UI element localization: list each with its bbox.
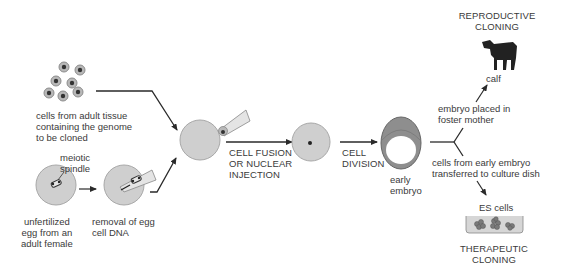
- arrow-to-calf: [476, 85, 487, 102]
- label-line: to be cloned: [36, 132, 132, 143]
- label-line: containing the genome: [36, 121, 132, 132]
- transfer-label: cells from early embryo transferred to c…: [432, 157, 540, 179]
- meiotic-spindle-label: meiotic spindle: [60, 152, 90, 174]
- label-line: egg from an: [21, 227, 73, 238]
- label-line: meiotic: [60, 152, 90, 163]
- cell-cluster-icon: [44, 62, 85, 101]
- early-embryo-label: early embryo: [390, 174, 422, 196]
- label-line: embryo placed in: [438, 103, 510, 114]
- culture-dish-icon: [466, 216, 523, 233]
- fusion-caption: CELL FUSION OR NUCLEAR INJECTION: [229, 147, 292, 180]
- label-line: unfertilized: [21, 216, 73, 227]
- arrow-to-dish: [477, 181, 486, 195]
- branch-connector: [430, 128, 463, 156]
- label-line: CLONING: [457, 21, 537, 32]
- removal-label: removal of egg cell DNA: [92, 216, 155, 238]
- enucleated-egg-icon: [104, 165, 156, 205]
- label-line: THERAPEUTIC: [454, 243, 534, 254]
- label-line: CELL: [342, 147, 385, 158]
- label-line: REPRODUCTIVE: [457, 10, 537, 21]
- foster-mother-label: embryo placed in foster mother: [438, 103, 510, 125]
- label-line: removal of egg: [92, 216, 155, 227]
- division-caption: CELL DIVISION: [342, 147, 385, 169]
- label-line: adult female: [21, 238, 73, 249]
- label-line: cell DNA: [92, 227, 155, 238]
- label-line: CLONING: [454, 254, 534, 265]
- reconstructed-egg-icon: [292, 123, 330, 161]
- label-line: OR NUCLEAR: [229, 158, 292, 169]
- label-line: foster mother: [438, 114, 510, 125]
- calf-icon: [482, 40, 517, 70]
- es-cells-label: ES cells: [479, 202, 513, 213]
- reproductive-cloning-title: REPRODUCTIVE CLONING: [457, 10, 537, 32]
- therapeutic-cloning-title: THERAPEUTIC CLONING: [454, 243, 534, 265]
- adult-cells-label: cells from adult tissue containing the g…: [36, 110, 132, 143]
- label-line: cells from early embryo: [432, 157, 540, 168]
- label-line: embryo: [390, 185, 422, 196]
- label-line: DIVISION: [342, 158, 385, 169]
- label-line: transferred to culture dish: [432, 168, 540, 179]
- unfertilized-egg-label: unfertilized egg from an adult female: [21, 216, 73, 249]
- label-line: early: [390, 174, 422, 185]
- blastocyst-icon: [381, 117, 421, 169]
- label-line: cells from adult tissue: [36, 110, 132, 121]
- label-line: INJECTION: [229, 169, 292, 180]
- label-line: CELL FUSION: [229, 147, 292, 158]
- label-line: spindle: [60, 163, 90, 174]
- calf-label: calf: [486, 73, 501, 84]
